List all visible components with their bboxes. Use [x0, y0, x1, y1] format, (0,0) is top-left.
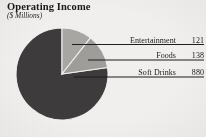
pie-label-foods-value: 138 [186, 51, 204, 60]
pie-label-soft-drinks: Soft Drinks 880 [112, 66, 204, 77]
pie-label-entertainment: Entertainment 121 [112, 34, 204, 45]
pie-chart-figure: Operating Income ($ Millions) Entertainm… [0, 0, 206, 137]
pie-label-soft-drinks-value: 880 [186, 68, 204, 77]
pie-label-entertainment-value: 121 [186, 36, 204, 45]
pie-label-foods: Foods 138 [112, 49, 204, 60]
title-block: Operating Income ($ Millions) [7, 1, 91, 20]
pie-label-entertainment-name: Entertainment [130, 36, 176, 45]
chart-subtitle: ($ Millions) [7, 12, 91, 20]
pie-label-soft-drinks-name: Soft Drinks [138, 68, 176, 77]
pie-label-foods-name: Foods [156, 51, 176, 60]
